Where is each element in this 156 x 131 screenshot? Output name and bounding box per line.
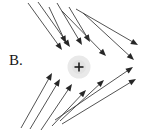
vector-upper-mid-1 (57, 3, 79, 40)
vector-lower-left-1-arrowhead-icon (46, 73, 52, 81)
vector-upper-mid-1-arrowhead-icon (76, 37, 82, 45)
vector-lower-left-2-arrowhead-icon (54, 79, 60, 87)
vector-upper-left-3 (49, 7, 63, 37)
vector-lower-right-2 (62, 82, 131, 124)
field-diagram-option-b: B. (0, 0, 156, 131)
vector-lower-right-2-arrowhead-icon (128, 79, 136, 85)
vector-lower-right-1 (55, 70, 128, 120)
option-label: B. (9, 52, 23, 68)
vector-upper-right-3 (83, 13, 129, 56)
vector-lower-mid-2 (60, 84, 100, 121)
vector-lower-left-2 (30, 84, 57, 129)
vector-lower-right-1-arrowhead-icon (125, 67, 133, 73)
vector-upper-mid-2 (69, 7, 87, 37)
vector-field-canvas (0, 0, 156, 131)
vector-lower-left-3 (41, 89, 69, 130)
vector-upper-right-2-arrowhead-icon (130, 39, 138, 45)
vector-upper-left-3-arrowhead-icon (60, 35, 66, 43)
vector-lower-left-3-arrowhead-icon (66, 84, 72, 92)
vector-upper-left-1-arrowhead-icon (55, 42, 62, 50)
positive-charge-marker (68, 56, 91, 79)
